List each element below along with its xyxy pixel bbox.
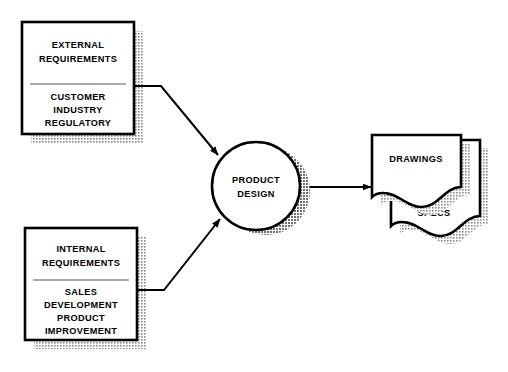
external-box-header-line2: REQUIREMENTS: [39, 54, 117, 64]
connector-internal-to-design: [137, 219, 220, 290]
diagram-canvas: EXTERNAL REQUIREMENTS CUSTOMER INDUSTRY …: [0, 0, 508, 372]
output-documents-node: SPECS DRAWINGS: [372, 135, 489, 244]
external-to-design-arrow: [134, 86, 218, 155]
product-design-node: PRODUCT DESIGN: [212, 142, 310, 235]
drawings-document-label: DRAWINGS: [389, 154, 442, 164]
external-box-item-1: INDUSTRY: [53, 105, 102, 115]
connector-external-to-design: [134, 86, 218, 155]
internal-box-header-line2: REQUIREMENTS: [42, 258, 120, 268]
internal-requirements-node: INTERNAL REQUIREMENTS SALES DEVELOPMENT …: [25, 228, 146, 349]
internal-box-item-1: DEVELOPMENT: [44, 300, 118, 310]
internal-box-item-2: PRODUCT: [57, 313, 105, 323]
diagram-svg: EXTERNAL REQUIREMENTS CUSTOMER INDUSTRY …: [0, 0, 508, 372]
internal-box-item-0: SALES: [65, 287, 97, 297]
internal-box-header-line1: INTERNAL: [56, 244, 105, 254]
product-design-label-line1: PRODUCT: [232, 175, 280, 185]
external-box-item-2: REGULATORY: [45, 118, 112, 128]
external-box-item-0: CUSTOMER: [50, 92, 105, 102]
internal-box-item-3: IMPROVEMENT: [45, 326, 117, 336]
internal-to-design-arrow: [137, 219, 220, 290]
product-design-circle-body: [212, 142, 300, 230]
external-box-header-line1: EXTERNAL: [52, 40, 104, 50]
product-design-label-line2: DESIGN: [237, 189, 274, 199]
external-requirements-node: EXTERNAL REQUIREMENTS CUSTOMER INDUSTRY …: [22, 22, 143, 143]
